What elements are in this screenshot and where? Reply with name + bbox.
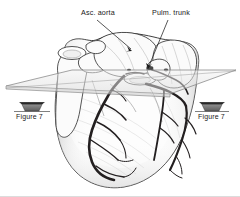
figure7-right-arrow-top (199, 102, 225, 105)
figure7-left-arrow (14, 102, 50, 112)
figure-container: Asc. aorta Pulm. trunk Figure 7 Figure 7 (0, 0, 240, 197)
heart-illustration (0, 0, 240, 197)
heart-body (50, 30, 205, 195)
auricle-fold (86, 41, 105, 54)
transverse-section-plane (6, 70, 236, 97)
figure-bottom-rule (0, 196, 240, 197)
cx-branch-4 (170, 170, 182, 178)
svc-lumen-inner (63, 50, 81, 58)
label-pulm-trunk: Pulm. trunk (152, 9, 190, 17)
figure7-left-arrow-top (19, 102, 45, 105)
figure7-right-arrow-shaft (202, 105, 222, 112)
label-figure7-left: Figure 7 (16, 113, 43, 121)
label-asc-aorta: Asc. aorta (81, 9, 115, 17)
label-figure7-right: Figure 7 (198, 113, 225, 121)
figure7-right-arrow (195, 102, 229, 112)
cx-branch-3 (176, 156, 182, 174)
cx-branch-2 (182, 140, 190, 158)
figure7-left-arrow-shaft (22, 105, 42, 112)
